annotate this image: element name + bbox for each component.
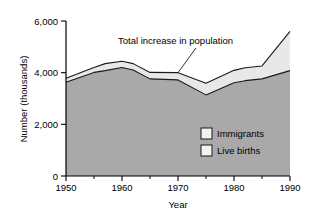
y-tick-label-6000: 6,000 [34,16,58,27]
x-tick-label-1980: 1980 [223,182,244,193]
legend-label-live-births: Live births [217,145,261,156]
population-area-chart: Total increase in population 02,0004,000… [0,0,310,218]
chart-figure: Total increase in population 02,0004,000… [0,0,310,218]
y-axis-tick-labels: 02,0004,0006,000 [34,16,58,182]
y-tick-label-4000: 4,000 [34,67,58,78]
x-axis-ticks [66,176,290,181]
x-tick-label-1990: 1990 [279,182,300,193]
legend-swatch-immigrants [201,128,212,139]
y-tick-label-0: 0 [53,171,58,182]
x-tick-label-1960: 1960 [111,182,132,193]
x-tick-label-1950: 1950 [55,182,76,193]
area-live-births [66,68,290,177]
legend-label-immigrants: Immigrants [217,128,264,139]
x-axis-tick-labels: 19501960197019801990 [55,182,300,193]
legend-swatch-live-births [201,145,212,156]
y-tick-label-2000: 2,000 [34,119,58,130]
y-axis-ticks [61,21,66,176]
annotation-total-increase: Total increase in population [118,35,233,46]
x-tick-label-1970: 1970 [167,182,188,193]
y-axis-title: Number (thousands) [18,56,29,143]
x-axis-title: Year [168,199,187,210]
